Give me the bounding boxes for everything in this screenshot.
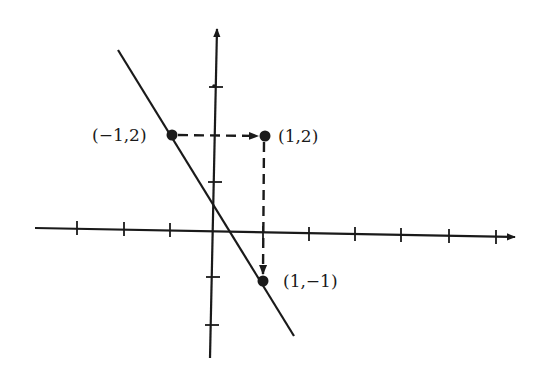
dashed-arrow-horizontal — [178, 135, 258, 136]
coordinate-plane — [0, 0, 540, 382]
point-label-1-2: (1,2) — [278, 128, 318, 145]
point-1-2 — [260, 131, 271, 142]
y-axis — [205, 29, 223, 358]
point-label-neg1-2: (−1,2) — [92, 127, 147, 144]
point-neg1-2 — [167, 130, 178, 141]
x-axis — [35, 221, 515, 244]
dashed-arrow-vertical — [263, 142, 264, 274]
point-1-neg1 — [258, 276, 269, 287]
point-label-1-neg1: (1,−1) — [283, 273, 338, 290]
line-through-points — [118, 50, 294, 336]
